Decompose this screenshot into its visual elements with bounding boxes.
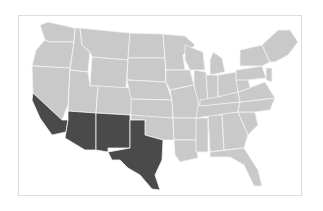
state-pennsylvania xyxy=(236,66,266,80)
other-states xyxy=(32,22,298,186)
state-louisiana xyxy=(174,140,198,162)
state-arkansas xyxy=(173,118,198,140)
state-michigan xyxy=(210,52,225,75)
state-florida xyxy=(210,148,262,186)
state-new-england xyxy=(262,30,298,62)
state-south-dakota xyxy=(127,58,166,82)
state-colorado xyxy=(96,86,132,115)
state-washington xyxy=(40,22,75,42)
state-alabama xyxy=(208,115,224,152)
state-nebraska xyxy=(127,80,172,100)
state-mississippi xyxy=(196,118,208,152)
state-wisconsin xyxy=(185,45,205,70)
state-wyoming xyxy=(90,57,128,88)
state-arizona xyxy=(65,111,96,150)
us-map xyxy=(0,0,323,211)
state-new-jersey xyxy=(266,68,272,82)
state-oregon xyxy=(32,40,74,68)
state-north-dakota xyxy=(128,33,165,58)
state-new-mexico xyxy=(96,113,130,152)
